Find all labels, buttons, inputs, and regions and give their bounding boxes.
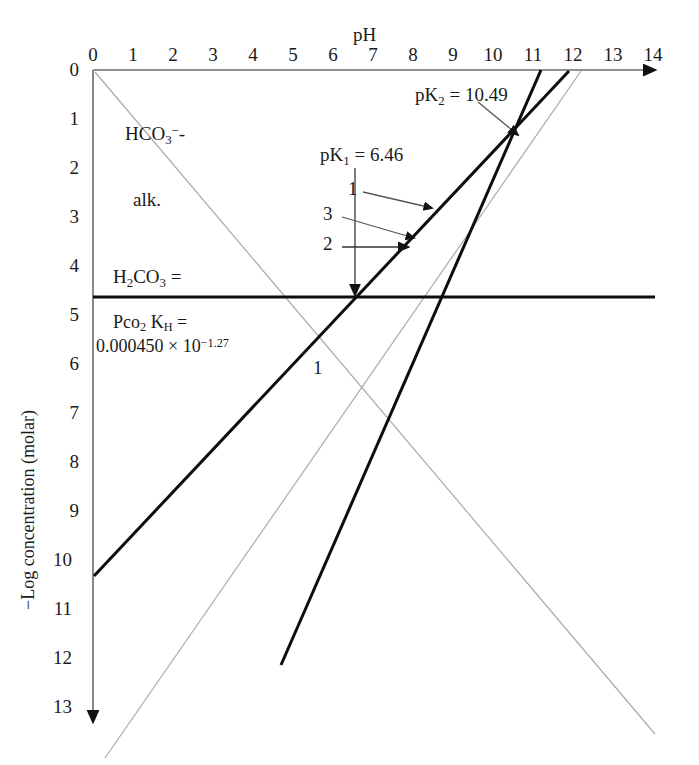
pk1-text: pK	[320, 144, 343, 165]
h2co3-co: CO	[133, 266, 159, 287]
x-tick-3: 3	[193, 44, 233, 65]
hco3-dash: -	[179, 123, 185, 144]
plot-canvas	[0, 0, 699, 765]
pk1-value: = 6.46	[350, 144, 403, 165]
hco3-superscript: −	[172, 122, 179, 137]
annotation-pk1: pK1 = 6.46	[320, 144, 403, 168]
x-tick-10: 10	[473, 44, 513, 65]
y-tick-4: 4	[39, 255, 79, 276]
pco2-value: 0.000450 × 10	[96, 336, 201, 356]
kh-text: K	[146, 312, 164, 332]
pk2-value: = 10.49	[445, 84, 508, 105]
y-tick-5: 5	[39, 304, 79, 325]
y-tick-0: 0	[39, 59, 79, 80]
pco2-text: Pco	[113, 312, 140, 332]
pk2-text: pK	[415, 84, 438, 105]
x-tick-13: 13	[593, 44, 633, 65]
y-tick-8: 8	[39, 451, 79, 472]
x-tick-5: 5	[273, 44, 313, 65]
annotation-alk-line2: alk.	[133, 189, 185, 210]
marker-label-1b: 1	[313, 357, 323, 378]
x-tick-12: 12	[553, 44, 593, 65]
y-tick-2: 2	[39, 157, 79, 178]
x-tick-4: 4	[233, 44, 273, 65]
pco2-equals: =	[172, 312, 187, 332]
x-tick-7: 7	[353, 44, 393, 65]
y-axis-title: −Log concentration (molar)	[18, 410, 38, 610]
annotation-pco2-line2: 0.000450 × 10−1.27	[96, 336, 229, 356]
log-concentration-ph-diagram: 0 1 2 3 4 5 6 7 8 9 10 11 12 13 14 0 1 2…	[0, 0, 699, 765]
hco3-text: HCO	[125, 123, 165, 144]
y-tick-9: 9	[39, 500, 79, 521]
marker-label-3: 3	[323, 203, 333, 224]
y-tick-1: 1	[39, 108, 79, 129]
marker-3-arrow	[342, 217, 414, 238]
marker-1-arrow	[363, 192, 432, 208]
x-tick-9: 9	[433, 44, 473, 65]
marker-label-2: 2	[323, 233, 333, 254]
h2co3-equals: =	[166, 266, 181, 287]
x-tick-11: 11	[513, 44, 553, 65]
annotation-pk2: pK2 = 10.49	[415, 84, 508, 108]
y-tick-3: 3	[39, 206, 79, 227]
annotation-pco2-line1: Pco2 KH =	[113, 312, 187, 335]
x-tick-8: 8	[393, 44, 433, 65]
y-tick-12: 12	[32, 647, 72, 668]
annotation-hco3-line1: HCO3−-	[125, 123, 185, 147]
h2co3-h: H	[113, 266, 127, 287]
x-tick-0: 0	[73, 44, 113, 65]
annotation-h2co3: H2CO3 =	[113, 266, 182, 290]
x-tick-2: 2	[153, 44, 193, 65]
y-tick-7: 7	[39, 402, 79, 423]
pco2-exponent: −1.27	[201, 336, 229, 350]
annotation-hco3-alk: HCO3−- alk.	[125, 80, 185, 253]
y-tick-13: 13	[32, 696, 72, 717]
marker-label-1: 1	[348, 178, 358, 199]
x-axis-title: pH	[353, 24, 376, 45]
x-tick-1: 1	[113, 44, 153, 65]
x-tick-14: 14	[633, 44, 673, 65]
y-tick-6: 6	[39, 353, 79, 374]
x-tick-6: 6	[313, 44, 353, 65]
